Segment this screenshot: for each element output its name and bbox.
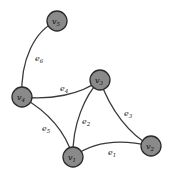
node-v2: v2 [141,136,161,156]
node-v4: v4 [12,87,32,107]
edge-label-e3: e3 [124,109,133,119]
edge-label-e2: e2 [82,117,91,127]
graph-diagram: e6 e4 e2 e3 e5 e1 v5 v3 v4 v1 v2 [0,0,169,177]
edge-label-e1: e1 [108,148,116,158]
node-v5: v5 [47,11,67,31]
node-v1: v1 [63,147,83,167]
edge-label-e6: e6 [35,54,44,64]
edge-label-e4: e4 [60,84,69,94]
edge-e5 [22,97,73,157]
node-v3: v3 [90,70,110,90]
edge-label-e5: e5 [42,124,51,134]
